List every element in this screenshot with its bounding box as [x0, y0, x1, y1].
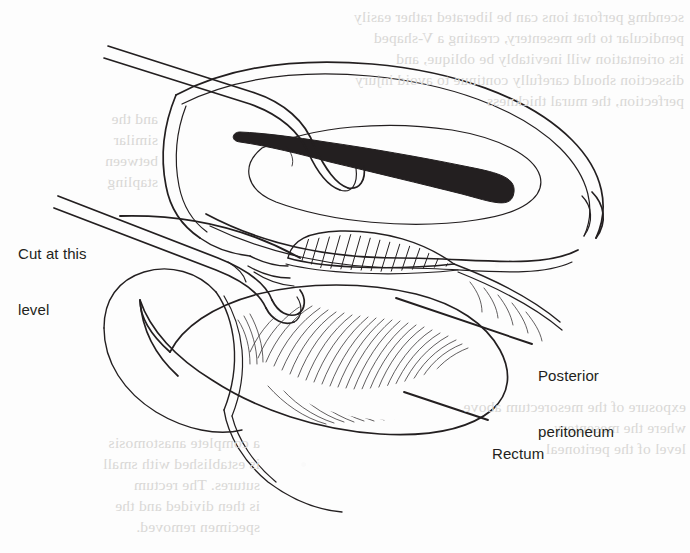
leader-rectum [404, 392, 488, 420]
label-cut-line2: level [18, 301, 87, 320]
leader-posterior-peritoneum [396, 298, 532, 344]
retractor-lower [54, 196, 304, 323]
leader-cut-level [120, 216, 300, 258]
label-cut-line1: Cut at this [18, 245, 87, 264]
label-posterior-peritoneum: Posterior peritoneum [538, 330, 614, 460]
label-posterior-line2: peritoneum [538, 423, 614, 442]
bowel-lumen [233, 132, 514, 203]
bowel-loop [176, 62, 603, 272]
label-cut-at-this-level: Cut at this level [18, 208, 87, 338]
rectum [104, 269, 508, 512]
label-rectum: Rectum [492, 408, 544, 482]
pedicle-junction [228, 256, 294, 286]
retractor-upper [104, 46, 364, 191]
rectal-surgery-illustration: .ln{fill:none;stroke:#231f20;stroke-line… [0, 0, 690, 553]
label-posterior-line1: Posterior [538, 367, 614, 386]
label-rectum-line1: Rectum [492, 445, 544, 464]
